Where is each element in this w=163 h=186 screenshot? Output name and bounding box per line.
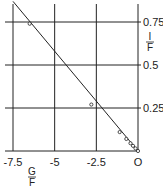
data-point [125,137,128,140]
data-point [131,144,134,147]
y-label-numerator: I [149,31,152,42]
fit-line [13,1,138,151]
data-point [136,149,139,152]
y-label-denominator: F [147,42,153,53]
x-tick-label: -5 [50,156,60,168]
data-point [28,22,31,25]
x-axis-ticks: -7.5-5-2.5O [4,156,143,168]
data-point [90,103,93,106]
grid-lines [5,4,141,151]
y-tick-label: 0.5 [143,59,158,71]
data-point [134,147,137,150]
data-point [118,130,121,133]
data-point [129,142,132,145]
y-tick-label: 0.25 [143,102,163,114]
y-tick-label: 0.75 [143,16,163,28]
y-axis-ticks: 0.250.50.75 [143,16,163,114]
chart: -7.5-5-2.5O 0.250.50.75 I F G F [0,0,163,186]
x-tick-label: -7.5 [4,156,23,168]
x-axis-label: G F [28,166,36,186]
x-tick-label: -2.5 [87,156,106,168]
x-label-denominator: F [29,177,35,186]
x-label-numerator: G [28,166,36,177]
y-axis-label: I F [146,31,154,53]
x-tick-label: O [134,156,143,168]
